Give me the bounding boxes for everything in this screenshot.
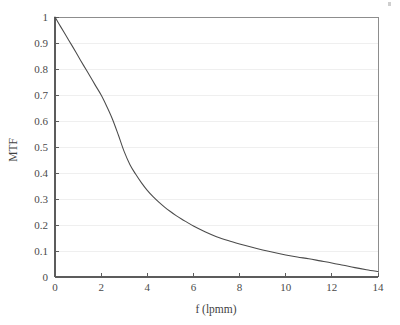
x-tick-label-group: 02468101214	[52, 281, 384, 293]
y-tick-label: 0.3	[34, 193, 48, 205]
y-axis-title: MTF	[7, 138, 19, 162]
y-tick-label: 1	[43, 11, 49, 23]
x-tick-label: 2	[98, 281, 104, 293]
mtf-curve	[55, 17, 378, 272]
x-axis-title: f (lpmm)	[195, 303, 236, 316]
y-tick-label: 0.7	[34, 89, 48, 101]
x-tick-label: 14	[373, 281, 385, 293]
gridline-group	[55, 17, 378, 251]
mtf-chart-figure: 02468101214 00.10.20.30.40.50.60.70.80.9…	[0, 0, 400, 325]
y-tick-label: 0.8	[34, 63, 48, 75]
y-tick-label: 0.5	[34, 141, 48, 153]
chart-canvas: 02468101214 00.10.20.30.40.50.60.70.80.9…	[0, 0, 400, 325]
y-tick-group	[55, 17, 59, 277]
x-tick-label: 0	[52, 281, 58, 293]
x-tick-label: 10	[280, 281, 292, 293]
y-tick-label: 0.2	[34, 219, 48, 231]
x-tick-group	[55, 273, 378, 277]
y-tick-label: 0.1	[34, 245, 48, 257]
x-tick-label: 12	[326, 281, 337, 293]
y-tick-label: 0	[43, 271, 49, 283]
x-tick-label: 4	[145, 281, 151, 293]
y-tick-label: 0.6	[34, 115, 48, 127]
y-tick-label: 0.9	[34, 37, 48, 49]
y-tick-label-group: 00.10.20.30.40.50.60.70.80.91	[34, 11, 48, 283]
x-tick-label: 6	[191, 281, 197, 293]
x-tick-label: 8	[237, 281, 243, 293]
y-tick-label: 0.4	[34, 167, 48, 179]
